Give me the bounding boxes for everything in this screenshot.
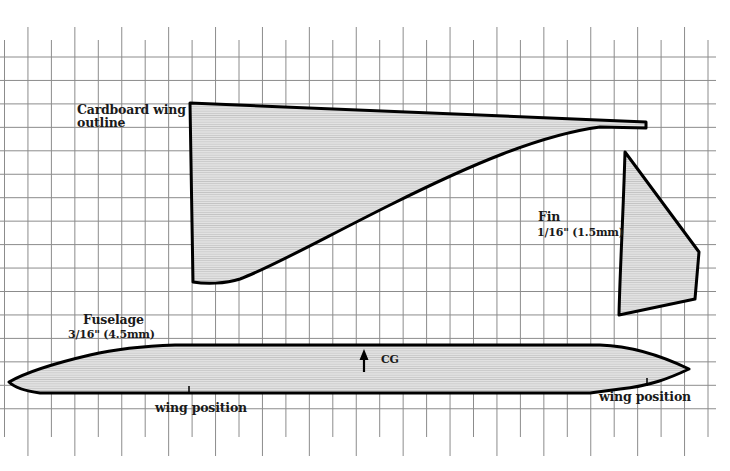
wing-position-label-right: wing position	[599, 390, 691, 403]
fuselage-thickness: 3/16" (4.5mm)	[68, 329, 155, 341]
fin-shape	[619, 152, 699, 315]
fin-thickness: 1/16" (1.5mm)	[537, 227, 624, 239]
wing-outline-shape	[190, 103, 646, 283]
wing-position-label-left: wing position	[155, 401, 247, 414]
wing-label-line2: outline	[77, 116, 186, 129]
cg-label: CG	[381, 354, 399, 366]
fin-label: Fin	[538, 210, 560, 223]
fuselage-shape	[9, 345, 689, 393]
wing-label: Cardboard wing outline	[77, 103, 186, 129]
fuselage-label: Fuselage	[83, 313, 144, 326]
